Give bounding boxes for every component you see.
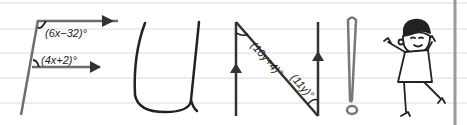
fun-diagram: (6x−32)° (4x+2)° (10y+4)° (11y)° [0, 0, 467, 125]
kid-body [398, 50, 432, 82]
arrow-up-icon [230, 63, 242, 73]
ruled-lines [0, 3, 467, 103]
cartoon-kid [384, 20, 445, 116]
f-arrows [90, 15, 114, 73]
f-top-angle-label: (6x−32)° [45, 27, 88, 39]
letter-u [135, 22, 199, 112]
arrow-right-icon [90, 61, 101, 73]
kid-right-leg [424, 82, 445, 103]
diagram-svg: (6x−32)° (4x+2)° (10y+4)° (11y)° [0, 0, 467, 125]
arrow-right-icon [102, 15, 114, 27]
f-bottom-angle-label: (4x+2)° [41, 54, 77, 66]
n-left-angle-label: (10y+4)° [249, 39, 286, 79]
exclamation-mark [347, 18, 357, 115]
kid-left-leg [401, 82, 410, 116]
